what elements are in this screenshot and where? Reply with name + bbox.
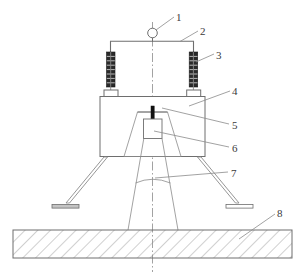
diagram-canvas: [0, 0, 305, 276]
arc-line: [136, 179, 171, 183]
right-spring-isolator: [187, 52, 201, 97]
support-leg-right: [198, 157, 240, 203]
leader-2: [180, 31, 198, 42]
crossbar-yoke: [110, 41, 194, 52]
callout-label-6: 6: [232, 143, 238, 154]
callout-label-4: 4: [232, 86, 238, 97]
hatched-base-plate: [13, 230, 292, 258]
technical-diagram-figure: 1 2 3 4 5 6 7 8: [0, 0, 305, 276]
callout-label-7: 7: [231, 168, 237, 179]
suspension-ring: [148, 28, 158, 41]
callout-label-2: 2: [200, 26, 206, 37]
leader-3: [196, 54, 214, 62]
support-leg-left: [66, 157, 108, 203]
leader-1: [156, 17, 174, 30]
emitter-tip: [151, 106, 154, 120]
callout-label-1: 1: [176, 12, 182, 23]
callout-label-8: 8: [277, 208, 283, 219]
callout-label-3: 3: [216, 50, 222, 61]
support-leg-right-foot: [226, 205, 253, 209]
support-leg-left-foot: [52, 205, 79, 209]
callout-label-5: 5: [232, 120, 238, 131]
inner-square-module: [144, 119, 163, 139]
left-spring-isolator: [104, 52, 118, 97]
